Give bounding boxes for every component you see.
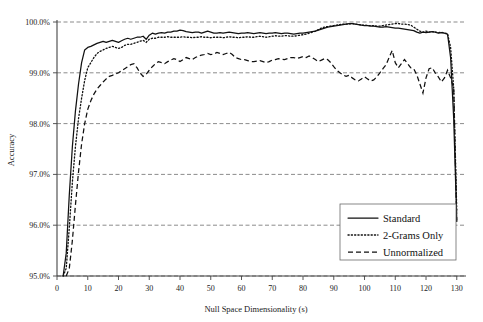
x-axis-title: Null Space Dimensionality (s) [204, 304, 307, 314]
x-tick-label: 20 [115, 284, 123, 293]
y-tick-label: 100.0% [25, 18, 50, 27]
y-tick-label: 96.0% [29, 221, 50, 230]
y-tick-label: 97.0% [29, 170, 50, 179]
x-tick-label: 110 [389, 284, 401, 293]
legend-label-standard: Standard [383, 213, 421, 224]
x-tick-label: 120 [420, 284, 432, 293]
y-tick-label: 99.0% [29, 69, 50, 78]
y-tick-label: 95.0% [29, 272, 50, 281]
legend-group: Standard2-Grams OnlyUnnormalized [340, 204, 456, 260]
legend-label-2-grams-only: 2-Grams Only [383, 230, 444, 241]
chart-figure: 95.0%96.0%97.0%98.0%99.0%100.0% 01020304… [0, 0, 483, 322]
y-tick-labels-group: 95.0%96.0%97.0%98.0%99.0%100.0% [25, 18, 50, 281]
x-tick-label: 60 [238, 284, 246, 293]
x-tick-label: 70 [268, 284, 276, 293]
x-tick-label: 30 [145, 284, 153, 293]
y-axis-title: Accuracy [6, 133, 16, 166]
x-tick-labels-group: 0102030405060708090100110120130 [55, 284, 463, 293]
y-tick-label: 98.0% [29, 120, 50, 129]
accuracy-line-chart: 95.0%96.0%97.0%98.0%99.0%100.0% 01020304… [0, 0, 483, 322]
x-tick-label: 80 [299, 284, 307, 293]
x-tick-label: 40 [176, 284, 184, 293]
x-tick-label: 50 [207, 284, 215, 293]
x-tick-label: 100 [359, 284, 371, 293]
x-tick-label: 90 [330, 284, 338, 293]
x-tick-label: 10 [84, 284, 92, 293]
legend-label-unnormalized: Unnormalized [383, 247, 444, 258]
x-tick-label: 130 [451, 284, 463, 293]
x-tick-label: 0 [55, 284, 59, 293]
